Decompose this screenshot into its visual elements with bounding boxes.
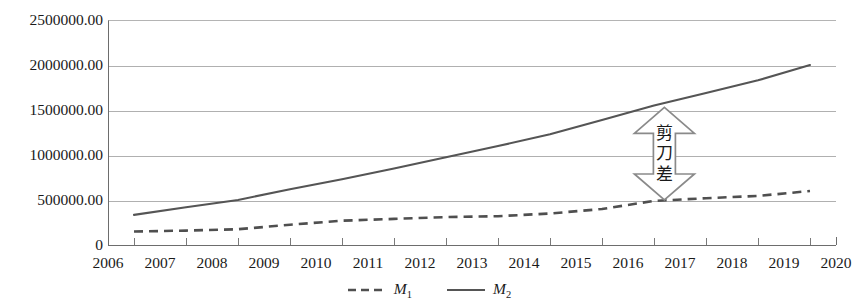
x-tick-label-2009: 2009 (249, 254, 280, 272)
x-tick-label-2013: 2013 (457, 254, 488, 272)
chart-legend: M1 M2 (0, 278, 858, 302)
annotation-char-2: 刀 (653, 143, 675, 164)
x-tick-label-2012: 2012 (405, 254, 436, 272)
x-tick-label-2018: 2018 (717, 254, 748, 272)
x-tick-label-2014: 2014 (509, 254, 540, 272)
legend-swatch-m1-dashed (347, 285, 387, 295)
money-supply-line-chart: 2500000.00 2000000.00 1500000.00 1000000… (0, 0, 858, 302)
series-m2-line (134, 65, 810, 215)
x-tick-label-2016: 2016 (613, 254, 644, 272)
legend-entry-m1: M1 (347, 280, 412, 300)
legend-label-m2: M2 (493, 280, 511, 300)
x-tick-label-2015: 2015 (561, 254, 592, 272)
legend-entry-m2: M2 (446, 280, 511, 300)
x-tick-label-2010: 2010 (301, 254, 332, 272)
x-tick-label-2017: 2017 (665, 254, 696, 272)
x-tick-label-2008: 2008 (197, 254, 228, 272)
x-tick-label-2020: 2020 (821, 254, 852, 272)
annotation-char-3: 差 (653, 164, 675, 185)
legend-swatch-m2-solid (446, 285, 486, 295)
x-tick-label-2019: 2019 (769, 254, 800, 272)
x-tick-label-2011: 2011 (353, 254, 383, 272)
x-tick-label-2006: 2006 (93, 254, 124, 272)
x-axis-labels: 2006200720082009201020112012201320142015… (0, 254, 858, 278)
scissors-gap-label: 剪 刀 差 (653, 123, 675, 185)
annotation-char-1: 剪 (653, 123, 675, 144)
x-tick-label-2007: 2007 (145, 254, 176, 272)
legend-label-m1: M1 (394, 280, 412, 300)
series-m1-line (134, 191, 810, 232)
